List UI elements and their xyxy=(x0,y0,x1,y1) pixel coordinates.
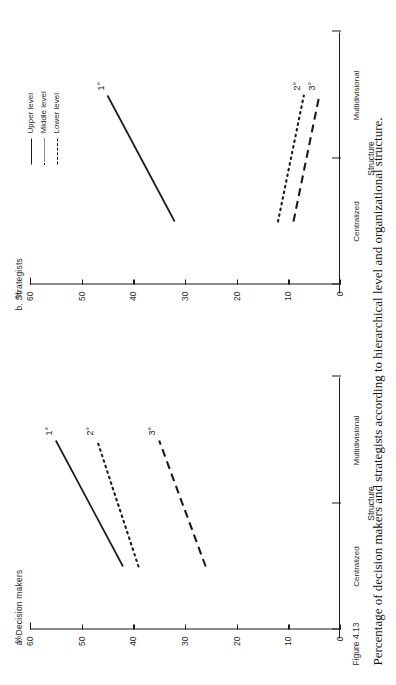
chart-b-plot-area: % 6050403020100 1°2°3° Centralized Multi… xyxy=(30,32,340,284)
chart-a-y-label-30: 30 xyxy=(180,636,190,645)
chart-a-y-unit: % xyxy=(13,635,23,643)
chart-a-line-middle-level xyxy=(97,440,138,566)
chart-b-y-label-0: 0 xyxy=(335,291,345,296)
chart-b-line-middle-level xyxy=(278,95,304,221)
chart-b-line-upper-level xyxy=(108,95,175,221)
chart-a-title: a. Decision makers xyxy=(14,569,24,645)
chart-b-y-label-10: 10 xyxy=(283,291,293,300)
chart-b-y-label-40: 40 xyxy=(128,291,138,300)
chart-b-point-label-lower-level: 3° xyxy=(307,81,317,90)
chart-a-y-label-50: 50 xyxy=(77,636,87,645)
chart-b-series-layer xyxy=(30,32,340,284)
figure-page: a. Decision makers % 6050403020100 1°2°3… xyxy=(0,0,396,685)
chart-b-line-lower-level xyxy=(294,95,320,221)
chart-b-y-label-60: 60 xyxy=(25,291,35,300)
chart-b-point-label-middle-level: 2° xyxy=(292,81,302,90)
chart-a-y-tick xyxy=(340,624,341,629)
chart-a-line-upper-level xyxy=(56,440,123,566)
figure-caption: Percentage of decision makers and strate… xyxy=(370,25,386,665)
chart-a-series-layer xyxy=(30,377,340,629)
chart-a-y-label-60: 60 xyxy=(25,636,35,645)
chart-b-y-label-50: 50 xyxy=(77,291,87,300)
chart-b-y-tick xyxy=(340,279,341,284)
chart-panel-decision-makers: a. Decision makers % 6050403020100 1°2°3… xyxy=(0,340,396,685)
chart-a-point-label-lower-level: 3° xyxy=(147,426,157,435)
chart-b-point-label-upper-level: 1° xyxy=(96,81,106,90)
chart-panel-strategists: b. Strategists Upper level Middle level … xyxy=(0,0,396,340)
chart-a-y-label-40: 40 xyxy=(128,636,138,645)
chart-a-y-label-10: 10 xyxy=(283,636,293,645)
chart-b-y-unit: % xyxy=(13,290,23,298)
chart-b-y-label-30: 30 xyxy=(180,291,190,300)
chart-b-y-label-20: 20 xyxy=(232,291,242,300)
chart-a-plot-area: % 6050403020100 1°2°3° Centralized Multi… xyxy=(30,377,340,629)
figure-number: Figure 4.13 xyxy=(351,25,361,665)
chart-a-line-lower-level xyxy=(159,440,206,566)
chart-a-point-label-upper-level: 1° xyxy=(44,426,54,435)
chart-a-point-label-middle-level: 2° xyxy=(85,426,95,435)
chart-b-title: b. Strategists xyxy=(14,258,24,310)
chart-a-y-label-20: 20 xyxy=(232,636,242,645)
figure-caption-block: Figure 4.13 Percentage of decision maker… xyxy=(351,25,386,665)
chart-a-y-label-0: 0 xyxy=(335,636,345,641)
